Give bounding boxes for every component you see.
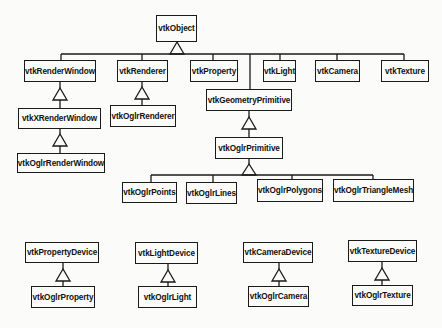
class-box-vtkOglrRenderer: vtkOglrRenderer <box>110 105 176 127</box>
class-box-vtkLight: vtkLight <box>263 60 296 82</box>
class-box-vtkGeometryPrimitive: vtkGeometryPrimitive <box>206 89 292 111</box>
inheritance-triangle-icon <box>242 164 256 175</box>
inheritance-triangle-icon <box>53 88 67 100</box>
class-box-vtkRenderWindow: vtkRenderWindow <box>24 60 96 82</box>
class-box-vtkOglrProperty: vtkOglrProperty <box>31 286 95 308</box>
class-box-vtkCameraDevice: vtkCameraDevice <box>243 242 313 263</box>
class-box-vtkOglrPolygons: vtkOglrPolygons <box>257 179 323 202</box>
inheritance-triangle-icon <box>135 87 149 99</box>
class-box-vtkXRenderWindow: vtkXRenderWindow <box>18 108 101 129</box>
class-box-vtkCamera: vtkCamera <box>315 60 360 82</box>
class-box-vtkTexture: vtkTexture <box>381 60 429 82</box>
class-box-vtkOglrTriangleMesh: vtkOglrTriangleMesh <box>333 179 414 202</box>
class-box-vtkTextureDevice: vtkTextureDevice <box>348 240 417 262</box>
inheritance-triangle-icon <box>56 269 70 281</box>
class-box-vtkObject: vtkObject <box>156 15 197 42</box>
inheritance-triangle-icon <box>375 268 389 280</box>
class-box-vtkOglrPrimitive: vtkOglrPrimitive <box>215 137 283 159</box>
class-box-vtkProperty: vtkProperty <box>190 60 238 82</box>
class-box-vtkOglrLight: vtkOglrLight <box>138 286 197 308</box>
class-box-vtkOglrTexture: vtkOglrTexture <box>352 285 413 306</box>
inheritance-triangle-icon <box>161 270 175 282</box>
class-box-vtkRenderer: vtkRenderer <box>117 60 168 82</box>
class-box-vtkLightDevice: vtkLightDevice <box>135 242 198 264</box>
class-box-vtkOglrLines: vtkOglrLines <box>186 182 237 204</box>
inheritance-triangle-icon <box>53 134 67 146</box>
inheritance-triangle-icon <box>272 269 286 281</box>
class-box-vtkOglrCamera: vtkOglrCamera <box>248 286 309 307</box>
class-box-vtkOglrRenderWindow: vtkOglrRenderWindow <box>17 153 105 173</box>
class-box-vtkOglrPoints: vtkOglrPoints <box>122 182 177 203</box>
class-box-vtkPropertyDevice: vtkPropertyDevice <box>25 242 99 263</box>
inheritance-triangle-icon <box>170 42 184 54</box>
inheritance-triangle-icon <box>242 117 256 129</box>
